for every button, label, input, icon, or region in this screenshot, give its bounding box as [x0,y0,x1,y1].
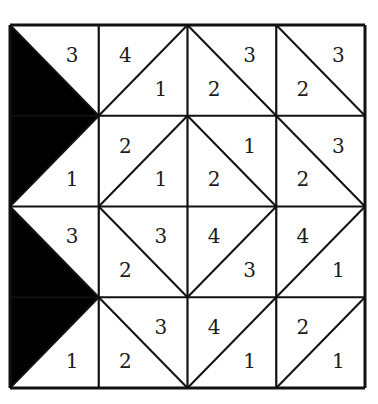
triangle-number: 2 [119,349,132,373]
triangle-number: 3 [66,224,79,248]
cell-diagonal [99,297,188,388]
triangle-number: 4 [119,43,132,67]
triangle-number: 3 [243,258,256,282]
cell-diagonal [276,297,365,388]
cell-diagonal [188,116,277,207]
triangle-number: 1 [332,349,345,373]
triangle-number: 1 [66,349,79,373]
triangle-number: 1 [155,167,168,191]
triangle-number: 1 [155,77,168,101]
triangle-number: 3 [155,315,168,339]
cell-numbers: 3413232121123233243411324121 [66,43,345,373]
triangle-number: 4 [297,224,310,248]
triangle-number: 2 [297,167,310,191]
cell-diagonal [188,25,277,116]
cell-diagonal [188,297,277,388]
triangle-number: 3 [66,43,79,67]
cell-diagonal [99,116,188,207]
triangle-number: 1 [332,258,345,282]
triangle-puzzle-board: 3413232121123233243411324121 [0,0,378,404]
triangle-number: 2 [208,167,221,191]
triangle-number: 1 [243,349,256,373]
triangle-number: 2 [297,315,310,339]
triangle-number: 4 [208,224,221,248]
triangle-number: 1 [66,167,79,191]
triangle-number: 3 [332,134,345,158]
cell-diagonal [276,207,365,298]
cell-diagonal [276,116,365,207]
triangle-number: 3 [155,224,168,248]
triangle-number: 4 [208,315,221,339]
cell-diagonal [276,25,365,116]
triangle-number: 2 [208,77,221,101]
triangle-number: 1 [243,134,256,158]
triangle-number: 2 [297,77,310,101]
triangle-number: 2 [119,134,132,158]
cell-diagonal [188,207,277,298]
triangle-number: 3 [243,43,256,67]
triangle-number: 2 [119,258,132,282]
cell-diagonal [99,25,188,116]
cell-diagonal [99,207,188,298]
triangle-number: 3 [332,43,345,67]
